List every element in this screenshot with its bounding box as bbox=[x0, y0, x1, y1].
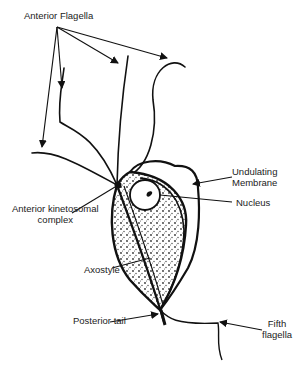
label-anterior-kinetosomal-complex: Anterior kinetosomal complex bbox=[12, 203, 99, 225]
nucleus bbox=[130, 180, 160, 210]
label-undulating-line2: Membrane bbox=[232, 177, 277, 188]
label-kinetosomal-line2: complex bbox=[12, 214, 99, 225]
label-posterior-tail: Posterior tail bbox=[73, 315, 126, 326]
label-undulating-line1: Undulating bbox=[232, 166, 277, 177]
label-fifth-line2: flagella bbox=[262, 329, 292, 340]
label-nucleus: Nucleus bbox=[236, 197, 270, 208]
cell-body bbox=[112, 161, 222, 360]
label-kinetosomal-line1: Anterior kinetosomal bbox=[12, 203, 99, 214]
label-anterior-flagella: Anterior Flagella bbox=[24, 10, 93, 21]
label-fifth-line1: Fifth bbox=[262, 318, 292, 329]
flagella bbox=[32, 56, 185, 185]
label-fifth-flagella: Fifth flagella bbox=[262, 318, 292, 340]
label-axostyle: Axostyle bbox=[84, 264, 120, 275]
label-undulating-membrane: Undulating Membrane bbox=[232, 166, 277, 188]
